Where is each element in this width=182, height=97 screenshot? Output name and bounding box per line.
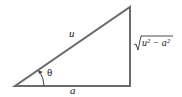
base-label: a — [70, 85, 76, 96]
vertical-side-label: u² − a² — [142, 38, 170, 48]
triangle-figure — [0, 0, 182, 97]
hypotenuse-label: u — [69, 28, 75, 39]
angle-arc — [40, 72, 44, 86]
right-triangle — [15, 7, 130, 86]
angle-label: θ — [47, 67, 52, 78]
